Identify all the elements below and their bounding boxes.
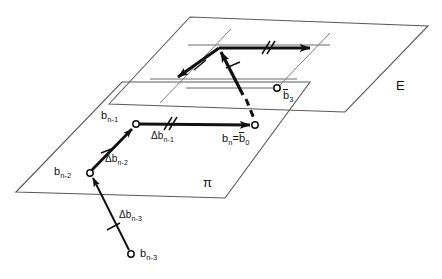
point-b-n-1 (133, 121, 139, 127)
label-plane-E: E (396, 79, 405, 92)
label-b-n-1: bn-1 (101, 110, 118, 124)
point-b-n (252, 122, 258, 128)
diagram-canvas (0, 0, 442, 279)
point-b-n-2 (87, 170, 93, 176)
label-plane-pi: π (203, 176, 212, 189)
label-b-n-2: bn-2 (54, 166, 71, 180)
projection-dashed-line (246, 99, 255, 121)
plane-E-outline (109, 17, 428, 112)
label-b-n-equals-b-0: bn=b0 (222, 133, 250, 147)
label-delta-b-n-3: Δbn-3 (119, 210, 142, 222)
point-b-n-3 (128, 251, 134, 257)
vector-diagram-figure: bn-1 bn=b0 bn-2 bn-3 b3 Δbn-1 Δbn-2 Δbn-… (0, 0, 442, 279)
vector-delta-b-n-1-translated (219, 41, 310, 54)
label-b-n-3: bn-3 (140, 248, 157, 262)
vector-delta-b-n-1 (138, 117, 250, 130)
label-delta-b-n-1: Δbn-1 (151, 131, 174, 143)
vector-resultant-in-E (221, 52, 243, 95)
label-delta-b-n-2: Δbn-2 (105, 154, 128, 166)
point-b-bar-3 (274, 85, 280, 91)
guide-line-b3-diagonal (277, 33, 330, 88)
label-b-bar-3: b3 (283, 90, 294, 104)
vector-delta-b-n-2-reversed (178, 48, 219, 77)
